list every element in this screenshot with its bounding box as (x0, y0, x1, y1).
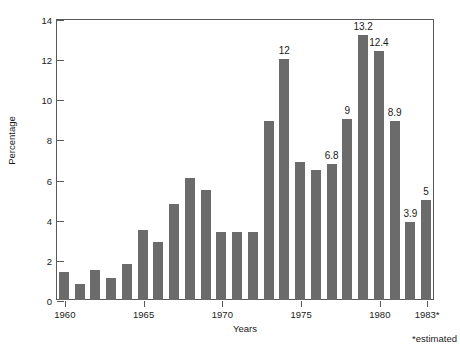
bar[interactable] (390, 121, 400, 300)
bar[interactable] (358, 35, 368, 300)
y-axis-tick-label: 4 (47, 215, 52, 228)
bar[interactable] (264, 121, 274, 300)
x-axis-tick-label: 1983* (415, 309, 440, 320)
y-axis-tick-label: 14 (41, 14, 52, 27)
x-axis-tick (427, 301, 428, 307)
y-axis-tick: 0 (57, 301, 64, 302)
x-axis-tick-label: 1980 (369, 309, 390, 320)
bar[interactable] (342, 119, 352, 300)
x-axis-tick (222, 301, 223, 307)
y-axis-tick-label: 2 (47, 255, 52, 268)
x-axis-tick-label: 1960 (54, 309, 75, 320)
y-axis-tick-label: 0 (47, 295, 52, 308)
bar[interactable] (374, 51, 384, 300)
bar[interactable] (185, 178, 195, 300)
y-axis-tick: 4 (57, 221, 64, 222)
bar[interactable] (279, 59, 289, 300)
y-axis-tick: 6 (57, 181, 64, 182)
footnote-estimated: *estimated (412, 333, 457, 344)
y-axis-tick: 14 (57, 20, 64, 21)
bar[interactable] (421, 200, 431, 300)
x-axis-tick (144, 301, 145, 307)
y-axis-tick: 2 (57, 261, 64, 262)
bar[interactable] (169, 204, 179, 300)
y-axis-tick-label: 6 (47, 175, 52, 188)
bar[interactable] (138, 230, 148, 300)
y-axis-tick: 12 (57, 60, 64, 61)
bar[interactable] (75, 284, 85, 300)
x-axis-title: Years (56, 323, 434, 334)
bar[interactable] (216, 232, 226, 300)
bar[interactable] (153, 242, 163, 300)
x-axis-tick-label: 1965 (133, 309, 154, 320)
y-axis-title-label: Percentage (6, 116, 17, 165)
x-axis-tick (380, 301, 381, 307)
bar[interactable] (90, 270, 100, 300)
bar[interactable] (201, 190, 211, 300)
bar[interactable] (295, 162, 305, 300)
bar[interactable] (405, 222, 415, 300)
x-axis-tick (65, 301, 66, 307)
y-axis-tick-label: 12 (41, 54, 52, 67)
x-axis-tick-label: 1970 (212, 309, 233, 320)
y-axis-tick: 8 (57, 140, 64, 141)
bar[interactable] (248, 232, 258, 300)
y-axis-tick: 10 (57, 100, 64, 101)
bar[interactable] (122, 264, 132, 300)
y-axis-tick-label: 10 (41, 94, 52, 107)
y-axis-tick-label: 8 (47, 134, 52, 147)
bar[interactable] (106, 278, 116, 300)
bar[interactable] (59, 272, 69, 300)
bar[interactable] (311, 170, 321, 300)
x-axis-tick-label: 1975 (291, 309, 312, 320)
bar[interactable] (327, 164, 337, 300)
bar[interactable] (232, 232, 242, 300)
bar-chart: Percentage 02468101214 19601965197019751… (0, 0, 460, 350)
x-axis-tick (301, 301, 302, 307)
y-axis-title: Percentage (4, 0, 18, 281)
